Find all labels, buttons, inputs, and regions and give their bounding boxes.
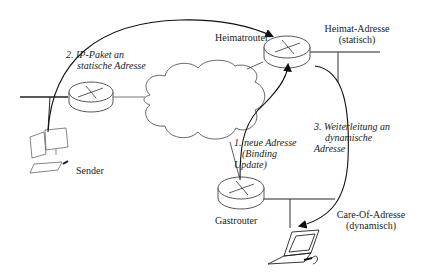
care-of-line2: (dynamisch)	[326, 220, 416, 231]
step3-line3: Adresse	[314, 143, 390, 154]
step3-line1: 3. Weiterleitung an	[314, 121, 390, 132]
sender-computer-icon	[30, 128, 68, 173]
heimatrouter-icon	[264, 36, 310, 68]
step2-line2: statische Adresse	[66, 60, 146, 71]
step2-label: 2. IP-Paket an statische Adresse	[66, 49, 146, 71]
home-address-line1: Heimat-Adresse	[312, 23, 402, 34]
gastrouter-icon	[218, 177, 264, 209]
care-of-line1: Care-Of-Adresse	[326, 209, 416, 220]
mobile-ip-diagram: Heimatrouter Heimat-Adresse (statisch) 2…	[0, 0, 424, 279]
step3-line2: dynamische	[314, 132, 390, 143]
home-address-label: Heimat-Adresse (statisch)	[312, 23, 402, 45]
home-address-line2: (statisch)	[312, 34, 402, 45]
sender-label: Sender	[76, 165, 104, 176]
step1-label: 1. neue Adresse (Binding Update)	[234, 137, 297, 170]
sender-router-icon	[69, 82, 113, 112]
cloud-heimat-link	[247, 62, 263, 69]
step1-line3: Update)	[234, 159, 297, 170]
gastrouter-label: Gastrouter	[215, 215, 257, 226]
mobile-host-laptop-icon	[268, 230, 319, 264]
step1-line1: 1. neue Adresse	[234, 137, 297, 148]
care-of-address-label: Care-Of-Adresse (dynamisch)	[326, 209, 416, 231]
step1-line2: (Binding	[234, 148, 297, 159]
step3-label: 3. Weiterleitung an dynamische Adresse	[314, 121, 390, 154]
heimatrouter-label: Heimatrouter	[215, 32, 268, 43]
step2-line1: 2. IP-Paket an	[66, 49, 146, 60]
